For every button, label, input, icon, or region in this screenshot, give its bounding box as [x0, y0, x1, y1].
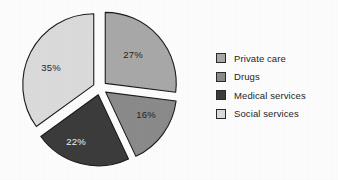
pie-plot-area: 27%16%22%35% [0, 0, 200, 180]
chart-legend: Private careDrugsMedical servicesSocial … [216, 49, 336, 123]
pie-slice-value-label: 35% [41, 62, 61, 73]
legend-item[interactable]: Private care [216, 49, 336, 68]
legend-item[interactable]: Medical services [216, 86, 336, 105]
pie-slice-value-label: 16% [136, 109, 156, 120]
legend-item-label: Private care [234, 53, 286, 64]
pie-slice-group [23, 12, 176, 165]
pie-svg: 27%16%22%35% [0, 0, 200, 180]
legend-item-label: Social services [234, 108, 299, 119]
legend-color-swatch [216, 72, 226, 82]
legend-color-swatch [216, 109, 226, 119]
legend-item[interactable]: Social services [216, 105, 336, 124]
pie-slice-value-label: 22% [66, 136, 86, 147]
legend-color-swatch [216, 90, 226, 100]
legend-item-label: Drugs [234, 71, 260, 82]
pie-slice-value-label: 27% [123, 49, 143, 60]
legend-item[interactable]: Drugs [216, 68, 336, 87]
pie-chart-figure: 27%16%22%35% Private careDrugsMedical se… [0, 0, 338, 180]
legend-item-label: Medical services [234, 90, 306, 101]
legend-color-swatch [216, 53, 226, 63]
